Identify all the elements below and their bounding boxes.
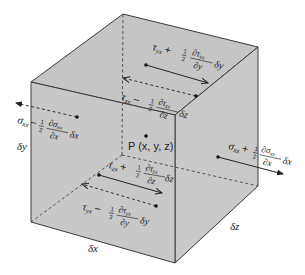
dimension-dy-label: δy [17,140,27,152]
point-p-label: P (x, y, z) [128,140,173,152]
svg-text:δx: δx [282,155,294,168]
stress-cube-diagram: τyx+ 1 2 ∂τyx ∂y δy τzx− 1 2 ∂τzx ∂z δz … [0,0,305,275]
dimension-dx-label: δx [88,242,98,254]
svg-text:∂x: ∂x [262,157,272,169]
svg-text:σxx−: σxx− [16,113,38,131]
dimension-dz-label: δz [230,220,240,232]
svg-text:∂y: ∂y [120,217,130,228]
